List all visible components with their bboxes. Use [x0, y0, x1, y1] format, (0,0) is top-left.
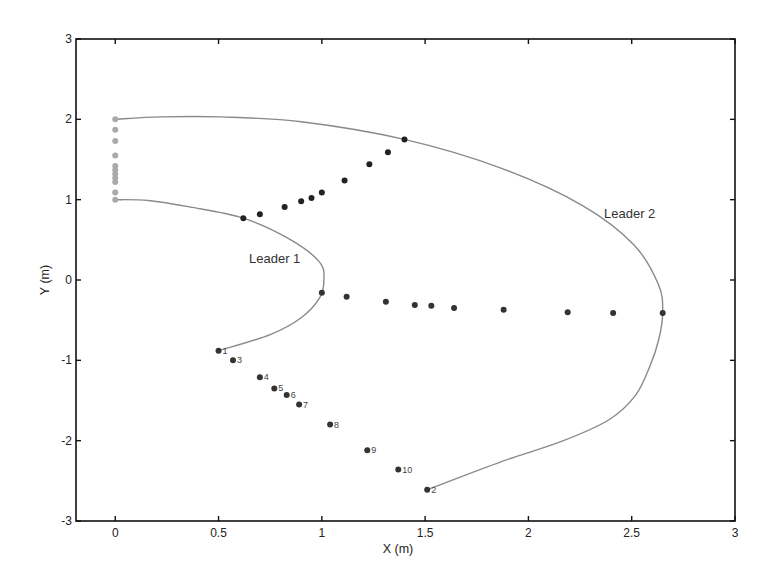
- y-tick-label: 2: [65, 112, 72, 126]
- x-tick-label: 2.5: [623, 526, 640, 540]
- y-tick-label: -2: [61, 434, 72, 448]
- data-point: [240, 215, 246, 221]
- data-point: [112, 127, 118, 133]
- x-tick-label: 0.5: [210, 526, 227, 540]
- y-tick-label: 3: [65, 32, 72, 46]
- x-axis-label: X (m): [383, 542, 414, 556]
- data-point: [284, 392, 290, 398]
- point-label: 6: [291, 390, 296, 400]
- data-point: [385, 149, 391, 155]
- trajectory-chart: 13456789102 00.511.522.53 -3-2-10123 X (…: [0, 0, 774, 579]
- y-axis-ticks: -3-2-10123: [61, 32, 735, 528]
- data-point: [610, 310, 616, 316]
- y-tick-label: -3: [61, 514, 72, 528]
- data-point: [344, 294, 350, 300]
- data-points: 13456789102: [112, 116, 665, 494]
- data-point: [319, 189, 325, 195]
- data-point: [565, 309, 571, 315]
- data-point: [112, 138, 118, 144]
- y-tick-label: -1: [61, 353, 72, 367]
- data-point: [282, 204, 288, 210]
- data-point: [271, 385, 277, 391]
- data-point: [309, 195, 315, 201]
- plot-frame: [76, 39, 735, 521]
- x-tick-label: 1.5: [417, 526, 434, 540]
- x-axis-ticks: 00.511.522.53: [112, 39, 739, 540]
- data-point: [401, 136, 407, 142]
- data-point: [112, 179, 118, 185]
- data-point: [342, 177, 348, 183]
- x-tick-label: 0: [112, 526, 119, 540]
- point-label: 3: [237, 355, 242, 365]
- annotation-leader-2: Leader 2: [604, 206, 655, 221]
- trajectory-line-1: [115, 200, 324, 351]
- point-label: 8: [334, 420, 339, 430]
- point-label: 5: [278, 383, 283, 393]
- data-point: [366, 161, 372, 167]
- trajectory-curves: [115, 116, 662, 489]
- data-point: [412, 302, 418, 308]
- data-point: [319, 290, 325, 296]
- point-label: 9: [371, 445, 376, 455]
- point-label: 4: [264, 372, 269, 382]
- data-point: [257, 211, 263, 217]
- y-tick-label: 0: [65, 273, 72, 287]
- annotation-leader-1: Leader 1: [249, 251, 300, 266]
- data-point: [112, 197, 118, 203]
- trajectory-line-2: [115, 116, 662, 489]
- data-point: [660, 310, 666, 316]
- point-label: 1: [223, 346, 228, 356]
- x-tick-label: 2: [525, 526, 532, 540]
- y-axis-label: Y (m): [38, 265, 52, 295]
- data-point: [451, 305, 457, 311]
- data-point: [424, 487, 430, 493]
- data-point: [112, 189, 118, 195]
- x-tick-label: 3: [732, 526, 739, 540]
- y-tick-label: 1: [65, 193, 72, 207]
- data-point: [216, 348, 222, 354]
- data-point: [112, 116, 118, 122]
- point-label: 10: [402, 465, 412, 475]
- data-point: [364, 447, 370, 453]
- data-point: [327, 422, 333, 428]
- data-point: [257, 374, 263, 380]
- data-point: [428, 303, 434, 309]
- data-point: [296, 402, 302, 408]
- x-tick-label: 1: [318, 526, 325, 540]
- data-point: [112, 152, 118, 158]
- point-label: 7: [303, 400, 308, 410]
- point-label: 2: [431, 485, 436, 495]
- data-point: [230, 357, 236, 363]
- data-point: [298, 198, 304, 204]
- data-point: [383, 299, 389, 305]
- data-point: [395, 467, 401, 473]
- data-point: [501, 307, 507, 313]
